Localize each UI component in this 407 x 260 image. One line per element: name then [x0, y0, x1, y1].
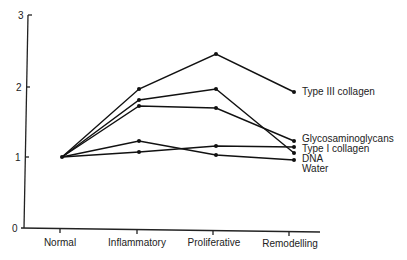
x-axis: [21, 228, 320, 236]
series-type-iii-collagen: [62, 54, 294, 157]
y-tick-3: 3: [18, 10, 24, 21]
y-tick-1: 1: [15, 152, 21, 163]
x-tick-normal: Normal: [44, 237, 76, 248]
label-type-iii-collagen: Type III collagen: [302, 86, 375, 97]
series-water: [62, 141, 294, 160]
label-water: Water: [302, 163, 329, 174]
series-lines: [62, 54, 294, 160]
x-tick-proliferative: Proliferative: [188, 237, 241, 248]
y-tick-0: 0: [12, 223, 18, 234]
x-tick-remodelling: Remodelling: [262, 238, 318, 249]
x-tick-inflammatory: Inflammatory: [108, 237, 166, 248]
line-chart: 3 2 1 0 Normal Inflammatory Proliferativ…: [0, 0, 407, 260]
y-tick-2: 2: [16, 82, 22, 93]
y-axis: [24, 15, 32, 228]
